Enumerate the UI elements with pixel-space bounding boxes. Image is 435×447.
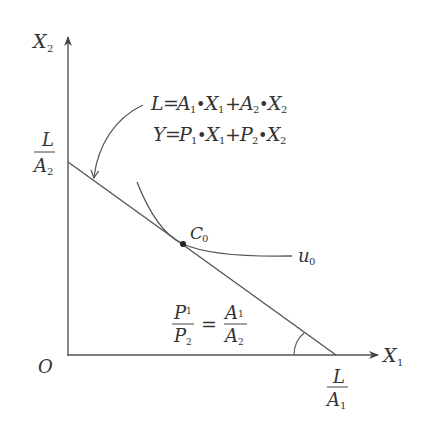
svg-text:1: 1 [340,400,346,411]
indifference-curve-label: u 0 [298,245,315,267]
svg-text:0: 0 [309,256,315,267]
svg-text:2: 2 [47,166,53,177]
svg-text:A: A [223,302,238,323]
svg-text:A: A [325,389,340,410]
svg-text:X: X [381,344,398,366]
x-intercept-label: L A 1 [325,366,348,411]
x-axis-label: X 1 [381,344,403,368]
svg-text:A: A [223,325,238,346]
pointer-arrow [94,105,143,177]
svg-text:A: A [32,155,47,176]
tangency-point-label: C 0 [190,223,208,244]
svg-text:1: 1 [397,357,403,368]
y-intercept-label: L A 2 [32,129,55,177]
svg-text:1: 1 [186,306,192,316]
svg-text:L: L [41,129,54,150]
svg-text:+: + [225,92,241,114]
svg-text:+: + [225,123,241,145]
svg-text:P: P [173,325,187,346]
svg-text:2: 2 [186,337,192,347]
angle-arc [294,333,304,355]
svg-text:A: A [175,92,191,114]
svg-text:L: L [150,92,164,114]
svg-text:2: 2 [238,337,244,347]
svg-text:=: = [201,313,217,335]
svg-text:2: 2 [47,43,53,54]
svg-text:1: 1 [218,104,224,115]
svg-text:L: L [332,366,345,387]
indifference-curve [137,182,292,256]
origin-label: O [38,356,53,377]
equations: L = A 1 • X 1 + A 2 • X 2 Y = P 1 • X 1 … [150,92,287,146]
y-axis-label: X 2 [31,30,53,54]
svg-text:1: 1 [238,309,244,319]
budget-constraint-diagram: X 2 X 1 O L A 2 L A 1 C 0 u 0 L = A [0,0,435,447]
labor-constraint-equation: L = A 1 • X 1 + A 2 • X 2 [150,92,287,115]
svg-text:0: 0 [202,233,208,244]
svg-text:X: X [31,30,48,52]
svg-text:2: 2 [281,104,287,115]
slope-relation: P 1 P 2 = A 1 A 2 [172,302,247,347]
svg-text:u: u [298,245,310,266]
svg-text:2: 2 [280,135,286,146]
income-equation: Y = P 1 • X 1 + P 2 • X 2 [153,123,286,146]
tangency-point [180,241,186,247]
svg-text:A: A [238,92,254,114]
svg-text:P: P [173,302,187,323]
